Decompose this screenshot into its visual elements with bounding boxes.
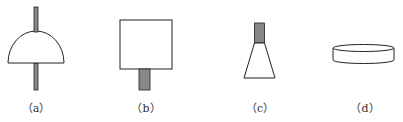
- panel-b-figure: [120, 20, 172, 90]
- panel-label-d: （d）: [350, 99, 379, 115]
- panel-d-figure: [333, 45, 394, 64]
- panel-c-figure: [244, 23, 275, 78]
- square-body: [120, 20, 172, 69]
- rod-lower: [34, 63, 38, 90]
- trapezoid-body: [244, 43, 275, 78]
- cylinder-top: [333, 45, 394, 52]
- top-block: [255, 23, 265, 43]
- dome: [8, 31, 64, 63]
- panel-label-c: （c）: [246, 99, 274, 115]
- figure-canvas: [0, 0, 403, 122]
- panel-a-figure: [8, 7, 64, 90]
- rod-upper: [34, 7, 38, 32]
- panel-label-b: （b）: [131, 99, 160, 115]
- stem: [139, 69, 150, 90]
- panel-label-a: （a）: [22, 99, 51, 115]
